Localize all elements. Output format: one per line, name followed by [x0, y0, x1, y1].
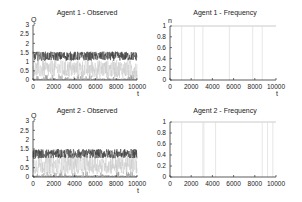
y-tick-label: 1: [25, 58, 29, 65]
x-tick-label: 0: [31, 180, 35, 187]
chart-figure: Agent 1 - Observed00.511.522.53020004000…: [0, 0, 302, 202]
y-tick-label: 0.5: [20, 67, 29, 74]
x-tick-label: 6000: [88, 83, 103, 90]
y-tick-label: 1: [162, 118, 166, 125]
series-line: [33, 149, 137, 158]
x-tick-label: 10000: [267, 180, 285, 187]
y-tick-label: 3: [25, 117, 29, 124]
y-tick-label: 0.4: [157, 55, 166, 62]
y-tick-label: 0: [162, 173, 166, 180]
agent1-frequency-chart: Agent 1 - Frequency00.20.40.60.810200040…: [157, 9, 285, 97]
plot-area: [170, 26, 276, 80]
x-tick-label: 2000: [184, 83, 199, 90]
y-tick-label: 3: [25, 21, 29, 28]
x-tick-label: 8000: [109, 180, 124, 187]
chart-title: Agent 2 - Observed: [57, 107, 118, 115]
x-tick-label: 10000: [128, 83, 146, 90]
x-axis-label: t: [137, 90, 139, 97]
y-tick-label: 0.4: [157, 151, 166, 158]
x-tick-label: 0: [31, 83, 35, 90]
x-tick-label: 6000: [226, 83, 241, 90]
x-axis-label: t: [276, 90, 278, 97]
y-tick-label: 0.2: [157, 65, 166, 72]
x-tick-label: 8000: [109, 83, 124, 90]
y-tick-label: 0: [162, 76, 166, 83]
x-tick-label: 6000: [226, 180, 241, 187]
chart-title: Agent 1 - Frequency: [193, 9, 257, 17]
y-tick-label: 0.5: [20, 164, 29, 171]
plot-area: [170, 122, 276, 177]
x-tick-label: 0: [168, 180, 172, 187]
y-tick-label: 1.5: [20, 145, 29, 152]
y-tick-label: 2.5: [20, 127, 29, 134]
x-tick-label: 4000: [67, 83, 82, 90]
x-axis-label: t: [137, 187, 139, 194]
axes: [170, 122, 276, 177]
agent1-observed-chart: Agent 1 - Observed00.511.522.53020004000…: [20, 9, 146, 97]
x-tick-label: 6000: [88, 180, 103, 187]
y-axis-label: Q: [31, 112, 37, 120]
y-axis-label: n: [168, 17, 172, 24]
x-tick-label: 2000: [184, 180, 199, 187]
y-tick-label: 0.8: [157, 33, 166, 40]
chart-title: Agent 2 - Frequency: [193, 107, 257, 115]
y-tick-label: 0.6: [157, 140, 166, 147]
x-tick-label: 8000: [248, 180, 263, 187]
x-tick-label: 8000: [248, 83, 263, 90]
y-tick-label: 0.8: [157, 129, 166, 136]
x-tick-label: 10000: [267, 83, 285, 90]
x-tick-label: 0: [168, 83, 172, 90]
x-tick-label: 4000: [67, 180, 82, 187]
x-tick-label: 2000: [47, 180, 62, 187]
x-tick-label: 4000: [205, 180, 220, 187]
y-tick-label: 0.2: [157, 162, 166, 169]
agent2-observed-chart: Agent 2 - Observed00.511.522.53020004000…: [20, 107, 146, 194]
y-axis-label: Q: [31, 16, 37, 24]
y-tick-label: 2: [25, 40, 29, 47]
chart-title: Agent 1 - Observed: [57, 9, 118, 17]
plot-area: [33, 52, 137, 80]
agent2-frequency-chart: Agent 2 - Frequency00.20.40.60.810200040…: [157, 107, 285, 187]
y-tick-label: 2.5: [20, 30, 29, 37]
series-line: [33, 60, 137, 78]
y-tick-label: 0: [25, 173, 29, 180]
y-tick-label: 0.6: [157, 44, 166, 51]
axes: [170, 26, 276, 80]
series-line: [33, 156, 137, 174]
x-tick-label: 4000: [205, 83, 220, 90]
plot-area: [33, 149, 137, 177]
y-tick-label: 1.5: [20, 49, 29, 56]
y-tick-label: 0: [25, 76, 29, 83]
y-tick-label: 1: [25, 155, 29, 162]
y-tick-label: 1: [162, 22, 166, 29]
x-tick-label: 2000: [47, 83, 62, 90]
y-tick-label: 2: [25, 136, 29, 143]
x-tick-label: 10000: [128, 180, 146, 187]
series-line: [33, 52, 137, 61]
